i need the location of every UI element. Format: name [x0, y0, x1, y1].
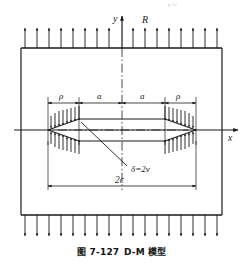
- dm-model-diagram: p.12: [0, 0, 245, 265]
- dimension-label-rho-left: ρ: [58, 91, 64, 101]
- top-load-arrows: [25, 28, 217, 48]
- bottom-load-arrows: [25, 215, 217, 236]
- figure-container: p.12: [0, 0, 245, 265]
- cohesive-arrows-right-upper: [165, 106, 193, 128]
- dimension-rho-left: ρ: [48, 91, 79, 103]
- x-axis-label: x: [227, 133, 233, 143]
- crack-opening-leader: [81, 122, 127, 166]
- cohesive-arrows-left-upper: [51, 106, 79, 128]
- dimension-rho-right: ρ: [165, 91, 196, 103]
- y-axis-label: y: [112, 13, 118, 24]
- page-header-remnant: p.12: [168, 2, 177, 7]
- cohesive-arrows-right-lower: [165, 132, 193, 154]
- remote-stress-label: R: [141, 14, 148, 25]
- dimension-a-left: a: [79, 91, 122, 103]
- dimension-label-rho-right: ρ: [175, 91, 181, 101]
- crack-opening-label: δ=2v: [131, 164, 150, 174]
- dimension-label-a-right: a: [140, 91, 145, 101]
- figure-caption-number: 图 7-127: [77, 247, 119, 257]
- dimension-label-2c: 2c: [115, 175, 125, 185]
- figure-caption-title: D-M 模型: [124, 246, 167, 257]
- cohesive-arrows-left-lower: [51, 132, 79, 154]
- dimension-label-a-left: a: [97, 91, 102, 101]
- dimension-a-right: a: [122, 91, 165, 103]
